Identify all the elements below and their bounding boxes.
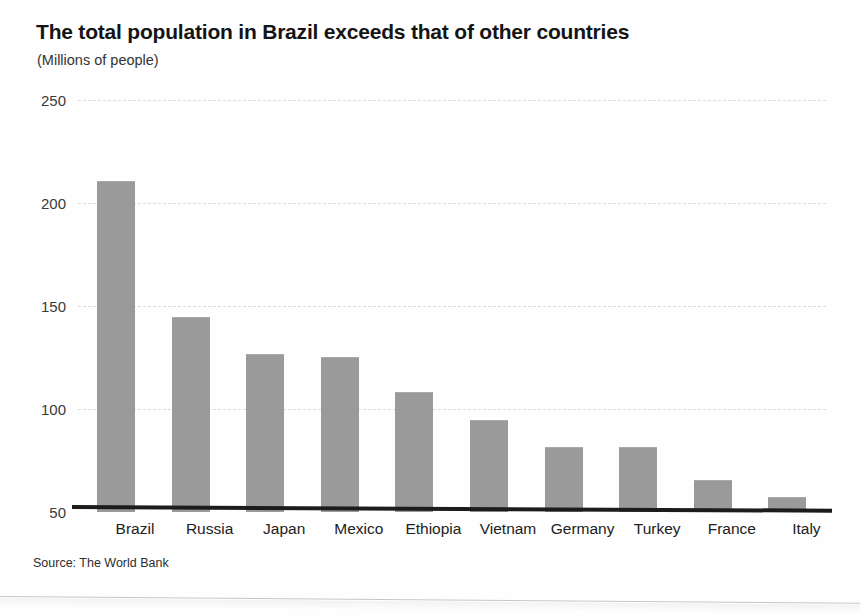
gridline	[78, 100, 826, 101]
chart-title: The total population in Brazil exceeds t…	[36, 20, 629, 44]
bar-germany[interactable]	[545, 447, 583, 512]
y-tick-label: 250	[20, 93, 66, 108]
page-edge-shadow	[0, 598, 860, 615]
y-tick-label: 100	[20, 402, 66, 417]
y-tick-label: 200	[20, 196, 66, 211]
chart-subtitle: (Millions of people)	[37, 52, 159, 68]
bar-japan[interactable]	[246, 354, 284, 512]
chart-figure: The total population in Brazil exceeds t…	[0, 0, 860, 615]
y-axis-tick-labels: 50100150200250	[16, 100, 66, 512]
bar-turkey[interactable]	[619, 447, 657, 512]
y-tick-label: 50	[20, 505, 66, 520]
bar-ethiopia[interactable]	[395, 392, 433, 512]
gridline	[78, 203, 826, 204]
x-axis-tick-labels: BrazilRussiaJapanMexicoEthiopiaVietnamGe…	[78, 520, 838, 546]
source-note: Source: The World Bank	[33, 556, 169, 570]
plot-area	[78, 100, 826, 512]
y-tick-label: 150	[20, 299, 66, 314]
bar-vietnam[interactable]	[470, 420, 508, 512]
bar-mexico[interactable]	[321, 357, 359, 513]
x-tick-label-italy: Italy	[758, 520, 854, 538]
gridline	[78, 306, 826, 307]
bar-brazil[interactable]	[97, 181, 135, 512]
bar-russia[interactable]	[172, 317, 210, 512]
